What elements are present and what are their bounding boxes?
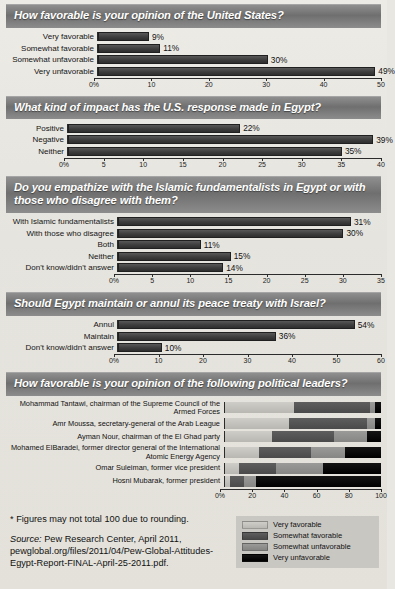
stacked-bar [225,463,381,474]
legend-item: Very favorable [242,520,375,529]
axis-tick-label: 50 [377,81,385,88]
stacked-segment-3 [375,418,381,429]
source-line: Source: Pew Research Center, April 2011,… [10,533,236,570]
bar-value-label: 39% [373,135,393,145]
bar-fill [98,32,149,41]
chart-stacked-political-leaders: Mohammad Tantawi, chairman of the Suprem… [6,396,381,505]
axis-tick-label: 0% [215,492,225,499]
bar-value-label: 11% [201,240,220,250]
bar-category-label: With Islamic fundamentalists [6,217,117,226]
bar-row: Maintain36% [6,331,381,341]
axis-tick-label: 30 [339,277,347,284]
axis-tick-label: 20 [219,161,227,168]
axis-tick-label: 35 [377,277,385,284]
bar-track: 36% [117,332,381,341]
x-axis: 0%510152025303540 [64,158,381,171]
stacked-row: Omar Suleiman, former vice president [6,463,381,474]
stacked-segment-1 [272,431,334,442]
stacked-segment-0 [225,447,259,458]
axis-tick-label: 20 [205,81,213,88]
bar-category-label: Both [6,240,117,249]
x-axis: 0%5101520253035 [114,274,381,287]
stacked-track [224,447,381,458]
bar-value-label: 36% [276,331,296,341]
footer: * Figures may not total 100 due to round… [6,507,381,570]
axis-tick-label: 100 [375,492,387,499]
bar-value-label: 9% [149,32,164,42]
bar-row: Positive22% [6,123,381,133]
stacked-bar [225,476,381,487]
stacked-segment-1 [259,447,310,458]
stacked-segment-0 [225,418,289,429]
stacked-segment-0 [225,402,294,413]
stacked-segment-1 [239,463,276,474]
legend-swatch-3 [242,554,268,562]
legend-swatch-1 [242,532,268,540]
bar-fill [98,67,375,76]
bar-track: 35% [67,147,381,156]
bar-category-label: Don't know/didn't answer [6,263,117,272]
stacked-segment-3 [345,447,381,458]
axis-tick-label: 40 [320,81,328,88]
panel-us-response-impact: What kind of impact has the U.S. respons… [6,96,381,173]
axis-tick-label: 0% [59,161,69,168]
bar-track: 30% [97,55,381,64]
stacked-track [224,476,381,487]
bar-category-label: Somewhat unfavorable [6,55,97,64]
legend-label: Very favorable [273,520,322,529]
axis-tick-label: 10 [147,81,155,88]
leader-label: Amr Moussa, secretary-general of the Ara… [6,420,224,428]
bar-category-label: Don't know/didn't answer [6,343,117,352]
bar-rows: Annul54%Maintain36%Don't know/didn't ans… [6,320,381,353]
bar-track: 14% [117,263,381,272]
bar-row: With those who disagree30% [6,228,381,238]
legend-label: Somewhat unfavorable [273,542,351,551]
bar-row: Both11% [6,240,381,250]
axis-tick-label: 15 [179,161,187,168]
chart-bar-us-favorability: Very favorable9%Somewhat favorable11%Som… [6,28,381,93]
axis-line [114,274,381,275]
leader-label: Mohamed ElBaradei, former director gener… [6,444,224,461]
bar-category-label: Very unfavorable [6,67,97,76]
bar-fill [68,147,342,156]
bar-category-label: With those who disagree [6,229,117,238]
stacked-row: Hosni Mubarak, former president [6,476,381,487]
axis-tick-label: 0% [109,277,119,284]
legend-swatch-2 [242,543,268,551]
bar-track: 15% [117,252,381,261]
stacked-track [224,463,381,474]
bar-value-label: 54% [355,320,375,330]
bar-value-label: 30% [268,55,288,65]
bar-category-label: Annul [6,320,117,329]
stacked-bar [225,418,381,429]
axis-tick-label: 25 [258,161,266,168]
stacked-row: Amr Moussa, secretary-general of the Ara… [6,418,381,429]
stacked-rows: Mohammad Tantawi, chairman of the Suprem… [6,400,381,488]
chart-bar-us-response-impact: Positive22%Negative39%Neither35% 0%51015… [6,119,381,173]
axis-tick-label: 10 [139,161,147,168]
stacked-bar [225,402,381,413]
stacked-track [224,431,381,442]
bar-category-label: Neither [6,252,117,261]
stacked-segment-2 [334,431,367,442]
bar-category-label: Neither [6,147,67,156]
bar-fill [118,332,276,341]
axis-tick-label: 5 [150,277,154,284]
stacked-segment-3 [323,463,381,474]
bar-fill [118,343,162,352]
x-axis: 0%1020304050 [94,78,381,91]
bar-row: Don't know/didn't answer14% [6,263,381,273]
legend-item: Very unfavorable [242,553,375,562]
bar-track: 11% [97,44,381,53]
bar-track: 10% [117,343,381,352]
leader-label: Hosni Mubarak, former president [6,477,224,485]
stacked-segment-0 [225,431,272,442]
bar-fill [98,44,160,53]
stacked-bar [225,431,381,442]
panel-peace-treaty: Should Egypt maintain or annul its peace… [6,292,381,369]
bar-fill [68,135,373,144]
bar-fill [118,263,223,272]
axis-tick-label: 0% [89,81,99,88]
bar-rows: Very favorable9%Somewhat favorable11%Som… [6,32,381,77]
